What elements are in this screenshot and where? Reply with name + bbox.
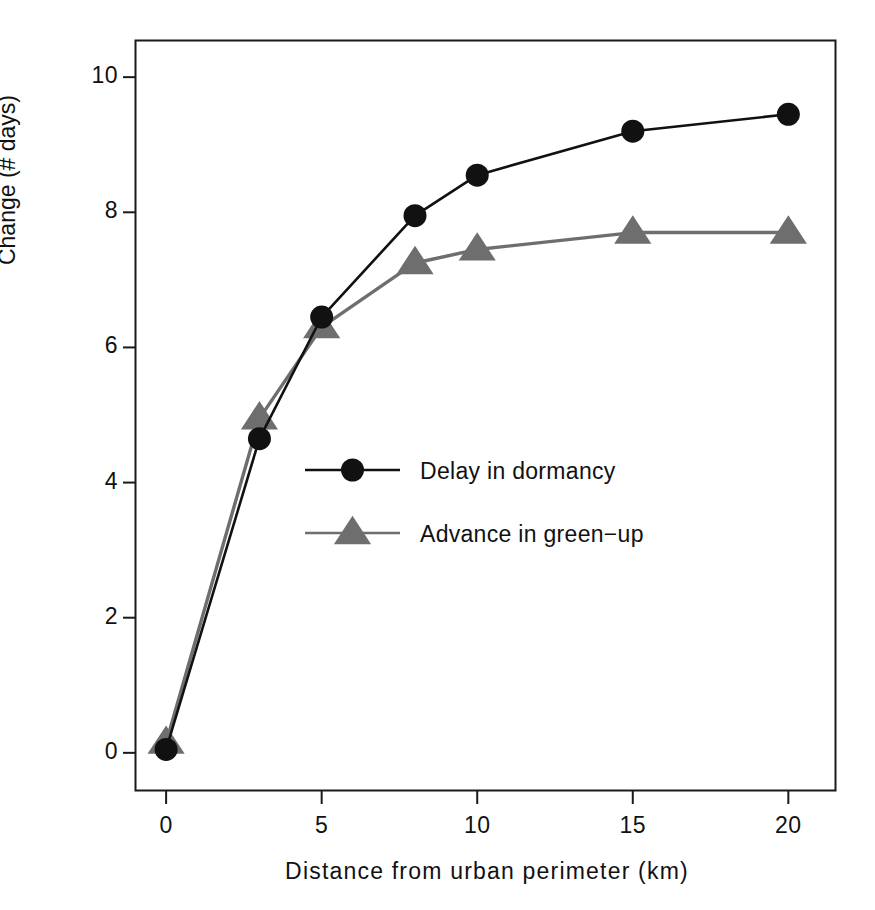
- data-point-marker: [621, 120, 644, 143]
- legend-label-2: Advance in green−up: [420, 521, 644, 548]
- series-delay-in-dormancy: [155, 103, 800, 761]
- series-line: [166, 233, 788, 743]
- plot-frame: [136, 41, 836, 791]
- data-point-marker: [777, 103, 800, 126]
- data-point-marker: [155, 738, 178, 761]
- legend-marker-triangle: [334, 516, 371, 544]
- data-point-marker: [770, 215, 807, 243]
- y-tick-marks: [123, 77, 135, 753]
- legend-markers: [305, 459, 400, 545]
- plot-canvas: [0, 0, 875, 910]
- data-point-marker: [310, 306, 333, 329]
- x-tick-marks: [166, 790, 788, 804]
- chart-figure: 10 8 6 4 2 0 0 5 10 15 20 Change (# days…: [0, 0, 875, 910]
- data-point-marker: [248, 427, 271, 450]
- legend-marker-circle: [341, 459, 364, 482]
- data-point-marker: [404, 204, 427, 227]
- data-point-marker: [466, 164, 489, 187]
- data-point-marker: [614, 215, 651, 243]
- legend-label-1: Delay in dormancy: [420, 458, 616, 485]
